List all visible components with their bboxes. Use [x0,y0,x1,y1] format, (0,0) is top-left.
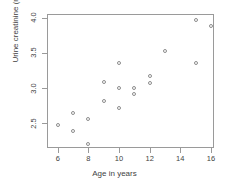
scatter-plot-figure: 2.53.03.54.0 6810121416 Age in years Uri… [0,0,229,193]
y-axis-tick-label: 4.0 [29,12,38,22]
x-axis-tick-label: 16 [201,154,221,163]
y-axis-tick-mark [42,53,47,54]
x-axis-tick-mark [88,148,89,153]
y-axis: 2.53.03.54.0 [0,0,229,193]
x-axis-tick-label: 12 [140,154,160,163]
x-axis-tick-mark [58,148,59,153]
x-axis-title: Age in years [0,169,229,178]
x-axis-tick-mark [119,148,120,153]
x-axis-tick-label: 6 [48,154,68,163]
y-axis-tick-label: 2.5 [29,118,38,128]
x-axis-tick-label: 14 [170,154,190,163]
x-axis-tick-mark [150,148,151,153]
x-axis-tick-label: 10 [109,154,129,163]
y-axis-tick-mark [42,123,47,124]
y-axis-tick-label: 3.0 [29,83,38,93]
x-axis-tick-mark [211,148,212,153]
x-axis-tick-label: 8 [78,154,98,163]
y-axis-title: Urine creatinine (mmol) [11,0,20,63]
x-axis-tick-mark [180,148,181,153]
y-axis-tick-mark [42,88,47,89]
y-axis-tick-label: 3.5 [29,48,38,58]
y-axis-title-wrap: Urine creatinine (mmol) [8,0,22,88]
y-axis-tick-mark [42,18,47,19]
